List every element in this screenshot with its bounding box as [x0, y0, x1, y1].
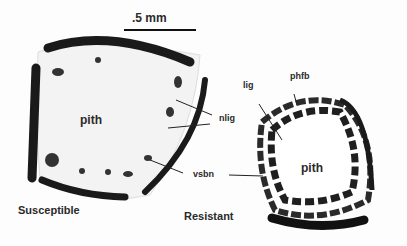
susceptible-section	[32, 40, 212, 200]
resistant-pith-label: pith	[301, 162, 323, 174]
resistant-label: Resistant	[184, 211, 234, 222]
susceptible-pith-label: pith	[80, 114, 102, 126]
scale-bar-label: .5 mm	[132, 12, 167, 24]
lig-label: lig	[243, 81, 254, 90]
phfb-label: phfb	[290, 72, 310, 81]
stem-cross-section-figure: .5 mm pith nlig vsbn Susceptible lig phf…	[0, 0, 407, 246]
nlig-label: nlig	[219, 114, 235, 123]
susceptible-label: Susceptible	[18, 205, 80, 216]
vsbn-label: vsbn	[193, 170, 214, 179]
resistant-section	[229, 94, 372, 226]
